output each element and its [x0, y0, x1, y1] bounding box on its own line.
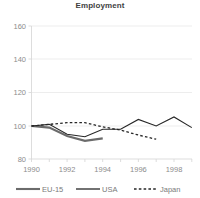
data-series-group: [32, 117, 192, 141]
gridlines: [32, 26, 193, 126]
chart-legend: EU-15 USA Japan: [16, 185, 180, 194]
xtick-label-1998: 1998: [166, 165, 183, 174]
xtick-label-1992: 1992: [59, 165, 76, 174]
xtick-label-1990: 1990: [23, 165, 40, 174]
ytick-label-100: 100: [13, 122, 26, 131]
chart-plot-area: 160 140 120 100 80 1990 1992 1994 1996 1…: [0, 0, 200, 198]
xtick-label-1996: 1996: [130, 165, 147, 174]
series-line-usa: [32, 117, 192, 137]
ytick-label-140: 140: [13, 55, 26, 64]
ytick-label-80: 80: [18, 155, 26, 164]
legend-label-usa: USA: [102, 185, 117, 194]
employment-line-chart: Employment: [0, 0, 200, 198]
xtick-label-1994: 1994: [94, 165, 111, 174]
legend-label-eu-15: EU-15: [42, 185, 63, 194]
ytick-label-120: 120: [13, 88, 26, 97]
ytick-label-160: 160: [13, 22, 26, 31]
legend-label-japan: Japan: [160, 185, 180, 194]
